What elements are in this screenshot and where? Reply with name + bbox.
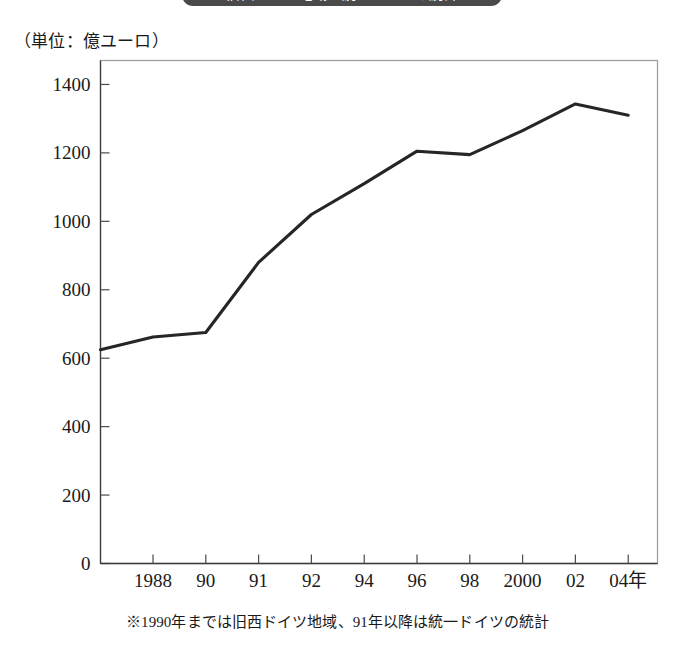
chart-page: 旧西ドイツ地域・統一ドイツの統計 （単位：億ユーロ） 0200400600800… [0, 0, 675, 657]
data-series [101, 104, 629, 350]
x-tick-label: 90 [196, 570, 215, 591]
y-tick-label: 1400 [53, 74, 91, 95]
y-axis: 0200400600800100012001400 [53, 61, 110, 575]
x-tick-label: 92 [302, 570, 321, 591]
y-tick-label: 200 [62, 485, 91, 506]
x-tick-label: 98 [460, 570, 479, 591]
x-tick-label: 96 [408, 570, 427, 591]
y-tick-label: 0 [81, 553, 91, 574]
x-tick-label: 04年 [609, 570, 647, 591]
footnote-label: ※1990年までは旧西ドイツ地域、91年以降は統一ドイツの統計 [0, 610, 675, 631]
y-tick-label: 1200 [53, 142, 91, 163]
line-chart: 0200400600800100012001400 19889091929496… [0, 0, 675, 657]
y-tick-label: 800 [62, 279, 91, 300]
series-polyline [101, 104, 629, 350]
x-axis: 198890919294969820000204年 [101, 555, 658, 591]
y-tick-label: 1000 [53, 211, 91, 232]
chart-canvas: 0200400600800100012001400 19889091929496… [0, 0, 675, 657]
y-tick-label: 400 [62, 416, 91, 437]
x-tick-label: 2000 [504, 570, 542, 591]
x-tick-label: 02 [566, 570, 585, 591]
x-tick-label: 91 [249, 570, 268, 591]
x-tick-label: 1988 [134, 570, 172, 591]
y-tick-label: 600 [62, 348, 91, 369]
plot-frame [101, 61, 658, 564]
x-tick-label: 94 [355, 570, 375, 591]
